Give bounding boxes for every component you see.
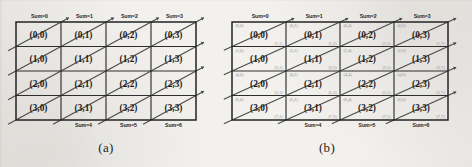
cell-label: (0,1)	[75, 30, 93, 41]
cell-corner-label-tl: (0,2)	[289, 23, 298, 29]
cell-corner-label-br: (1,1)	[274, 41, 283, 47]
cell-label: (0,1)	[304, 30, 322, 41]
cell-corner-label-br: (5,3)	[328, 90, 337, 96]
panel-b-grid: (0,0)(1,1)(0,0)(0,2)(1,3)(0,1)(0,4)(1,5)…	[212, 0, 472, 135]
cell-label: (0,0)	[250, 30, 268, 41]
cell-label: (1,1)	[75, 54, 93, 65]
cell-corner-label-br: (1,3)	[328, 41, 337, 47]
cell-label: (3,3)	[412, 103, 430, 114]
cell-label: (3,1)	[75, 103, 93, 114]
cell-label: (3,3)	[165, 103, 183, 114]
cell-corner-label-tl: (2,6)	[397, 48, 406, 54]
sum-label-top: Sum=0	[252, 13, 269, 19]
cell-corner-label-tl: (6,6)	[397, 97, 406, 103]
cell-corner-label-tl: (4,4)	[343, 72, 352, 78]
sum-label-bottom: Sum=4	[75, 122, 92, 128]
cell-corner-label-tl: (6,2)	[289, 97, 298, 103]
sum-label-top: Sum=2	[360, 13, 377, 19]
panel-a: (0,0)(0,1)(0,2)(0,3)(1,0)(1,1)(1,2)(1,3)…	[0, 0, 212, 135]
cell-label: (3,1)	[304, 103, 322, 114]
cell-corner-label-tl: (2,4)	[343, 48, 352, 54]
cell-label: (1,0)	[30, 54, 48, 65]
cell-label: (0,2)	[358, 30, 376, 41]
cell-corner-label-br: (3,1)	[274, 65, 283, 71]
cell-label: (3,2)	[120, 103, 138, 114]
cell-corner-label-tl: (0,0)	[235, 23, 244, 29]
sum-label-top: Sum=0	[31, 13, 48, 19]
sum-label-bottom: Sum=6	[165, 122, 182, 128]
cell-corner-label-br: (5,5)	[382, 90, 391, 96]
cell-label: (3,2)	[358, 103, 376, 114]
cell-label: (2,2)	[358, 79, 376, 90]
sum-label-bottom: Sum=4	[305, 122, 322, 128]
cell-label: (0,3)	[165, 30, 183, 41]
cell-corner-label-br: (3,5)	[382, 65, 391, 71]
cell-label: (2,0)	[30, 79, 48, 90]
figure-two-grid-diagonal-diagram: (0,0)(0,1)(0,2)(0,3)(1,0)(1,1)(1,2)(1,3)…	[0, 0, 472, 167]
panel-a-grid: (0,0)(0,1)(0,2)(0,3)(1,0)(1,1)(1,2)(1,3)…	[0, 0, 212, 135]
cell-label: (2,2)	[120, 79, 138, 90]
cell-corner-label-tl: (4,0)	[235, 72, 244, 78]
sum-label-top: Sum=1	[76, 13, 93, 19]
cell-corner-label-tl: (2,0)	[235, 48, 244, 54]
cell-label: (0,0)	[30, 30, 48, 41]
cell-corner-label-tl: (6,0)	[235, 97, 244, 103]
cell-label: (2,3)	[165, 79, 183, 90]
cell-corner-label-tl: (0,4)	[343, 23, 352, 29]
sum-label-top: Sum=3	[414, 13, 431, 19]
sum-label-bottom: Sum=5	[359, 122, 376, 128]
cell-label: (1,0)	[250, 54, 268, 65]
cell-corner-label-tl: (6,4)	[343, 97, 352, 103]
cell-label: (2,1)	[75, 79, 93, 90]
cell-label: (3,0)	[30, 103, 48, 114]
cell-label: (3,0)	[250, 103, 268, 114]
cell-corner-label-tl: (0,6)	[397, 23, 406, 29]
cell-corner-label-br: (3,3)	[328, 65, 337, 71]
panel-b-caption: (b)	[307, 140, 347, 156]
cell-label: (2,3)	[412, 79, 430, 90]
cell-label: (1,1)	[304, 54, 322, 65]
cell-corner-label-tl: (4,2)	[289, 72, 298, 78]
panel-b: (0,0)(1,1)(0,0)(0,2)(1,3)(0,1)(0,4)(1,5)…	[212, 0, 472, 135]
cell-label: (2,1)	[304, 79, 322, 90]
panel-a-caption: (a)	[86, 140, 126, 156]
cell-corner-label-br: (1,7)	[436, 41, 445, 47]
cell-corner-label-br: (5,1)	[274, 90, 283, 96]
cell-label: (1,2)	[358, 54, 376, 65]
sum-label-bottom: Sum=6	[413, 122, 430, 128]
cell-corner-label-br: (3,7)	[436, 65, 445, 71]
cell-label: (0,2)	[120, 30, 138, 41]
sum-label-bottom: Sum=5	[120, 122, 137, 128]
sum-label-top: Sum=3	[166, 13, 183, 19]
sum-label-top: Sum=2	[121, 13, 138, 19]
cell-label: (2,0)	[250, 79, 268, 90]
cell-corner-label-tl: (2,2)	[289, 48, 298, 54]
cell-label: (0,3)	[412, 30, 430, 41]
cell-corner-label-br: (5,7)	[436, 90, 445, 96]
cell-label: (1,2)	[120, 54, 138, 65]
cell-corner-label-br: (1,5)	[382, 41, 391, 47]
sum-label-top: Sum=1	[306, 13, 323, 19]
cell-label: (1,3)	[165, 54, 183, 65]
cell-corner-label-tl: (4,6)	[397, 72, 406, 78]
cell-label: (1,3)	[412, 54, 430, 65]
